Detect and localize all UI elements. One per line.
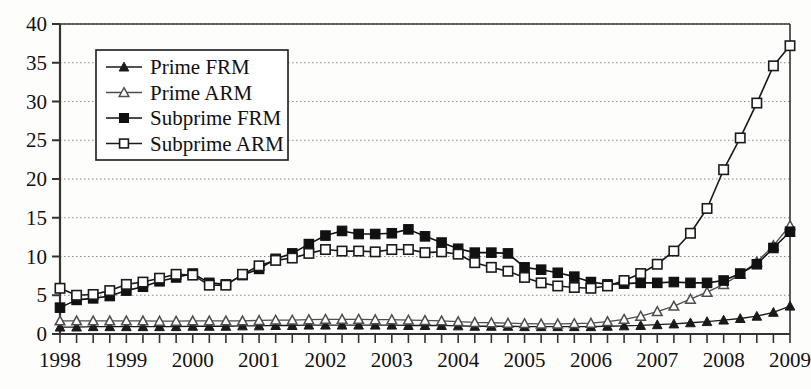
- marker-square-filled: [354, 229, 363, 238]
- ytick-label-0: 0: [37, 322, 48, 346]
- marker-square-open: [520, 273, 529, 282]
- marker-square-open: [138, 277, 147, 286]
- marker-square-filled: [686, 278, 695, 287]
- chart-figure: 0510152025303540199819992000200120022003…: [0, 0, 811, 389]
- marker-square-open: [288, 253, 297, 262]
- marker-square-filled: [437, 238, 446, 247]
- marker-square-open: [205, 280, 214, 289]
- marker-square-filled: [321, 231, 330, 240]
- marker-square-filled: [120, 114, 129, 123]
- legend-label-subprime-arm: Subprime ARM: [150, 132, 284, 156]
- marker-square-open: [437, 247, 446, 256]
- marker-square-filled: [769, 243, 778, 252]
- marker-square-filled: [503, 249, 512, 258]
- marker-square-filled: [404, 225, 413, 234]
- marker-square-open: [719, 165, 728, 174]
- marker-square-open: [122, 280, 131, 289]
- marker-square-open: [271, 256, 280, 265]
- ytick-label-25: 25: [26, 128, 47, 152]
- ytick-label-15: 15: [26, 206, 47, 230]
- marker-square-filled: [304, 239, 313, 248]
- marker-square-filled: [719, 276, 728, 285]
- marker-triangle-open: [669, 301, 679, 310]
- marker-square-open: [453, 249, 462, 258]
- marker-square-filled: [371, 229, 380, 238]
- marker-square-filled: [636, 278, 645, 287]
- marker-square-filled: [536, 265, 545, 274]
- marker-square-open: [702, 204, 711, 213]
- marker-square-open: [603, 281, 612, 290]
- marker-triangle-filled: [769, 308, 779, 317]
- xtick-label-1998: 1998: [39, 348, 81, 372]
- marker-square-open: [553, 281, 562, 290]
- marker-square-open: [304, 249, 313, 258]
- marker-triangle-filled: [785, 301, 795, 310]
- chart-legend: Prime FRMPrime ARMSubprime FRMSubprime A…: [96, 50, 288, 160]
- ytick-label-20: 20: [26, 167, 47, 191]
- xtick-label-2007: 2007: [636, 348, 678, 372]
- marker-square-open: [619, 276, 628, 285]
- marker-square-open: [487, 263, 496, 272]
- marker-square-open: [221, 280, 230, 289]
- marker-square-open: [536, 278, 545, 287]
- chart-plot-area: 0510152025303540199819992000200120022003…: [0, 0, 811, 389]
- marker-triangle-open: [702, 287, 712, 296]
- marker-square-open: [752, 98, 761, 107]
- marker-square-open: [503, 267, 512, 276]
- xtick-label-2006: 2006: [570, 348, 612, 372]
- ytick-label-30: 30: [26, 90, 47, 114]
- xtick-label-2004: 2004: [437, 348, 480, 372]
- marker-square-filled: [487, 248, 496, 257]
- ytick-label-5: 5: [37, 283, 48, 307]
- xtick-label-2001: 2001: [238, 348, 280, 372]
- xtick-label-2002: 2002: [304, 348, 346, 372]
- marker-square-open: [88, 290, 97, 299]
- marker-square-filled: [785, 227, 794, 236]
- legend-label-prime-arm: Prime ARM: [150, 81, 252, 105]
- marker-square-open: [636, 269, 645, 278]
- marker-square-open: [171, 270, 180, 279]
- xtick-label-2000: 2000: [172, 348, 214, 372]
- marker-square-filled: [570, 272, 579, 281]
- marker-square-open: [254, 261, 263, 270]
- marker-triangle-open: [652, 307, 662, 316]
- marker-square-open: [769, 61, 778, 70]
- marker-square-filled: [337, 226, 346, 235]
- marker-square-filled: [702, 278, 711, 287]
- marker-square-filled: [55, 303, 64, 312]
- marker-square-filled: [387, 229, 396, 238]
- marker-square-open: [736, 133, 745, 142]
- marker-square-filled: [420, 232, 429, 241]
- xtick-label-2003: 2003: [371, 348, 413, 372]
- xtick-label-2008: 2008: [703, 348, 745, 372]
- marker-square-open: [155, 274, 164, 283]
- marker-square-open: [470, 258, 479, 267]
- marker-square-filled: [553, 268, 562, 277]
- marker-square-open: [120, 139, 129, 148]
- marker-square-open: [238, 270, 247, 279]
- marker-square-open: [653, 260, 662, 269]
- marker-square-open: [188, 270, 197, 279]
- ytick-label-40: 40: [26, 12, 47, 36]
- marker-square-filled: [520, 263, 529, 272]
- legend-label-subprime-frm: Subprime FRM: [150, 106, 282, 130]
- marker-square-filled: [752, 260, 761, 269]
- legend-label-prime-frm: Prime FRM: [150, 55, 250, 79]
- marker-square-open: [686, 229, 695, 238]
- marker-square-open: [420, 248, 429, 257]
- ytick-label-35: 35: [26, 51, 47, 75]
- marker-square-filled: [736, 269, 745, 278]
- marker-square-open: [321, 245, 330, 254]
- marker-square-filled: [653, 278, 662, 287]
- series-subprime-frm: [55, 225, 794, 313]
- marker-square-filled: [470, 248, 479, 257]
- marker-triangle-open: [686, 294, 696, 303]
- marker-square-open: [785, 41, 794, 50]
- marker-square-open: [669, 246, 678, 255]
- ytick-label-10: 10: [26, 245, 47, 269]
- xtick-label-1999: 1999: [105, 348, 147, 372]
- marker-square-open: [55, 284, 64, 293]
- xtick-label-2009: 2009: [769, 348, 811, 372]
- xtick-label-2005: 2005: [504, 348, 546, 372]
- marker-square-open: [371, 247, 380, 256]
